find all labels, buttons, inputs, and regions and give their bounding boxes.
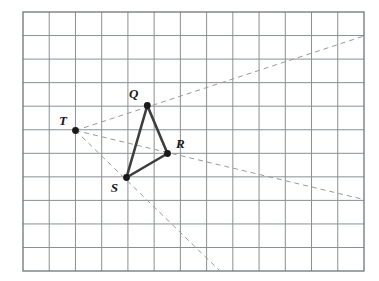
vertex-label-t: T — [59, 113, 68, 128]
geometry-figure: QRST — [0, 0, 379, 281]
vertex-label-q: Q — [129, 86, 139, 101]
vertex-point-s — [123, 174, 130, 181]
figure-canvas: QRST — [0, 0, 379, 281]
vertex-point-t — [72, 127, 79, 134]
vertex-label-r: R — [175, 136, 185, 151]
vertex-point-q — [144, 102, 151, 109]
vertex-point-r — [164, 150, 171, 157]
figure-background — [0, 0, 379, 281]
vertex-label-s: S — [111, 180, 118, 195]
